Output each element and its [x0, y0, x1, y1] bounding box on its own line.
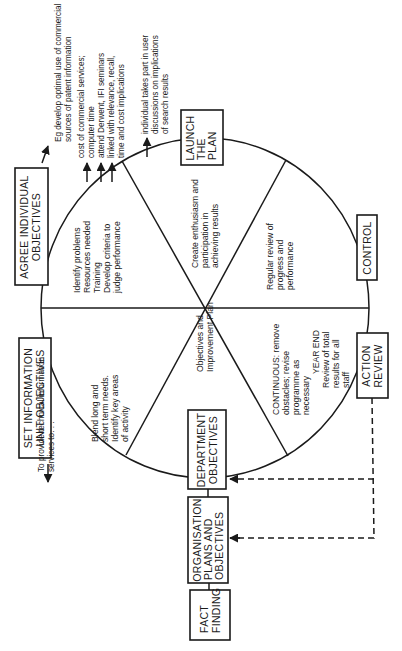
annotation-individual: individual takes part in user discussion… — [141, 35, 170, 134]
svg-text:ACTION: ACTION — [360, 345, 372, 386]
label-control: CONTROL — [361, 221, 373, 274]
svg-text:results for all: results for all — [331, 339, 341, 388]
svg-text:discussions on implications: discussions on implications — [151, 35, 160, 134]
svg-text:of search results: of search results — [161, 74, 170, 134]
svg-text:SET INFORMATION: SET INFORMATION — [22, 348, 34, 448]
svg-text:linked with relevance, recall,: linked with relevance, recall, — [107, 56, 116, 158]
svg-text:individual takes part in user: individual takes part in user — [141, 35, 150, 134]
svg-text:Review of total: Review of total — [321, 332, 331, 388]
svg-text:obstacles; revise: obstacles; revise — [281, 351, 291, 415]
svg-text:time and cost implications: time and cost implications — [117, 64, 126, 158]
svg-text:judge performance: judge performance — [112, 221, 122, 294]
svg-text:Create enthusiasm and: Create enthusiasm and — [190, 179, 200, 268]
svg-text:CONTROL: CONTROL — [361, 221, 373, 274]
svg-text:short term needs.: short term needs. — [100, 375, 110, 442]
annotation-eg-develop: Eg develop optimal use of commercial sou… — [54, 3, 73, 142]
feedback-dashed-line — [230, 398, 374, 538]
svg-text:programme as: programme as — [291, 360, 301, 415]
segment-continuous-text: CONTINUOUS: remove obstacles; revise pro… — [271, 324, 311, 415]
arrow-eg-develop — [42, 146, 48, 163]
svg-text:staff: staff — [341, 371, 351, 388]
svg-text:DEPARTMENT: DEPARTMENT — [195, 413, 207, 488]
svg-text:YEAR END: YEAR END — [311, 330, 321, 374]
svg-text:sources of patent information: sources of patent information — [64, 36, 73, 142]
svg-text:REVIEW: REVIEW — [372, 344, 384, 387]
svg-text:OBJECTIVES: OBJECTIVES — [213, 512, 225, 580]
segment-identify-text: Identify problems Resources needed Train… — [72, 221, 122, 294]
label-action-review: ACTION REVIEW — [360, 344, 384, 387]
svg-text:Blend long and: Blend long and — [90, 384, 100, 442]
svg-text:cost of commercial services;: cost of commercial services; — [77, 55, 86, 158]
svg-text:Eg develop optimal use of comm: Eg develop optimal use of commercial — [54, 3, 63, 142]
segment-objectives-plan-text: Objectives and Improvement Plan — [195, 302, 215, 372]
svg-text:of activity: of activity — [120, 405, 130, 442]
svg-text:OBJECTIVES: OBJECTIVES — [30, 193, 42, 261]
svg-text:progress and: progress and — [275, 240, 285, 290]
svg-text:FINDING: FINDING — [210, 588, 222, 633]
annotation-cost: cost of commercial services; computer ti… — [77, 55, 96, 158]
svg-text:services to. . .: services to. . . — [47, 421, 56, 472]
svg-text:Improvement Plan: Improvement Plan — [205, 302, 215, 372]
svg-text:PLAN: PLAN — [206, 131, 218, 160]
svg-text:AGREE INDIVIDUAL: AGREE INDIVIDUAL — [18, 175, 30, 278]
svg-text:Training: Training — [92, 262, 102, 293]
svg-text:participation in: participation in — [200, 212, 210, 268]
svg-text:performance: performance — [285, 242, 295, 290]
svg-text:To provide technical informati: To provide technical information — [37, 356, 46, 472]
svg-text:FACT: FACT — [198, 605, 210, 633]
svg-text:OBJECTIVES: OBJECTIVES — [207, 416, 219, 484]
svg-text:Identify key areas: Identify key areas — [110, 375, 120, 442]
label-department-objectives: DEPARTMENT OBJECTIVES — [195, 413, 219, 488]
svg-text:Regular review of: Regular review of — [265, 223, 275, 290]
svg-text:CONTINUOUS: remove: CONTINUOUS: remove — [271, 324, 281, 415]
annotation-attend: attend Derwent, IFI seminars linked with… — [97, 53, 126, 158]
svg-text:achieving results: achieving results — [210, 204, 220, 268]
segment-year-end-text: YEAR END Review of total results for all… — [311, 330, 351, 388]
svg-text:necessary: necessary — [301, 375, 311, 415]
svg-text:Objectives and: Objectives and — [195, 315, 205, 372]
segment-regular-review-text: Regular review of progress and performan… — [265, 223, 295, 290]
svg-text:computer time: computer time — [87, 106, 96, 158]
svg-text:attend Derwent, IFI seminars: attend Derwent, IFI seminars — [97, 53, 106, 158]
svg-text:Identify problems: Identify problems — [72, 228, 82, 293]
segment-blend-text: Blend long and short term needs. Identif… — [90, 375, 130, 442]
svg-text:Resources needed: Resources needed — [82, 221, 92, 293]
segment-enthusiasm-text: Create enthusiasm and participation in a… — [190, 179, 220, 268]
management-by-objectives-cycle-diagram: AGREE INDIVIDUAL OBJECTIVES SET INFORMAT… — [0, 0, 402, 651]
svg-text:Develop criteria to: Develop criteria to — [102, 224, 112, 293]
